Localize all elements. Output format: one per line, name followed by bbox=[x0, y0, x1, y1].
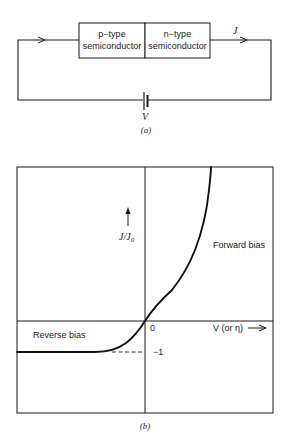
caption-b: (b) bbox=[140, 421, 151, 431]
diode-figure: p−type semiconductor n−type semiconducto… bbox=[0, 0, 285, 437]
circuit-diagram: p−type semiconductor n−type semiconducto… bbox=[18, 23, 271, 135]
p-semiconductor-label: semiconductor bbox=[83, 41, 142, 51]
y-arrowhead-icon bbox=[126, 207, 131, 214]
voltage-label: V bbox=[142, 111, 150, 122]
p-type-label: p−type bbox=[98, 29, 125, 39]
n-type-label: n−type bbox=[164, 29, 191, 39]
x-axis-label: V (or η) bbox=[213, 323, 243, 333]
caption-a: (a) bbox=[141, 125, 152, 135]
y-axis-label: J/J0 bbox=[119, 231, 135, 244]
reverse-bias-label: Reverse bias bbox=[33, 330, 86, 340]
n-semiconductor-label: semiconductor bbox=[148, 41, 207, 51]
forward-bias-label: Forward bias bbox=[213, 240, 266, 250]
iv-plot: J/J0 Forward bias Reverse bias 0 −1 V (o… bbox=[17, 167, 273, 431]
current-label: J bbox=[233, 25, 238, 36]
origin-label: 0 bbox=[150, 323, 155, 333]
minus-one-label: −1 bbox=[153, 347, 163, 357]
iv-curve bbox=[17, 167, 211, 352]
